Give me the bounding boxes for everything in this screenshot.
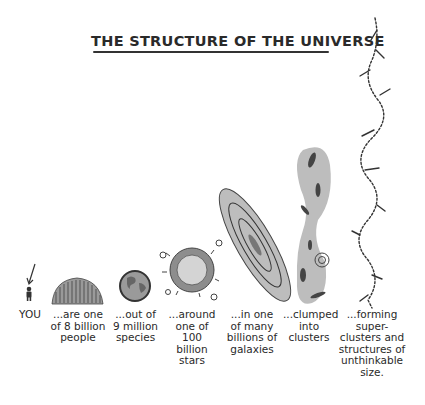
person-icon [27, 287, 32, 301]
label-stars: ...around one of 100 billion stars [164, 309, 220, 367]
earth-icon [120, 271, 150, 301]
galaxy-cluster-icon [297, 147, 331, 304]
label-superclusters: ...forming super- clusters and structure… [334, 309, 410, 378]
supercluster-filament-icon [352, 18, 390, 308]
label-galaxies: ...in one of many billions of galaxies [221, 309, 283, 355]
label-people: ...are one of 8 billion people [47, 309, 109, 344]
sun-icon [160, 240, 222, 300]
label-species: ...out of 9 million species [108, 309, 163, 344]
arrow-icon [27, 264, 35, 284]
label-you: YOU [14, 309, 46, 321]
label-clusters: ...clumped into clusters [283, 309, 335, 344]
crowd-icon [52, 278, 103, 304]
